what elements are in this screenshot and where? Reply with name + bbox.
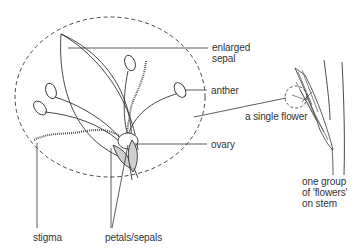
label-enlarged-sepal-line1: enlarged: [212, 42, 250, 53]
flower-diagram: [0, 0, 362, 251]
main-stem: [324, 60, 330, 120]
spikelet-lines: [292, 70, 328, 140]
label-petals-sepals: petals/sepals: [105, 232, 162, 243]
filament: [128, 94, 176, 135]
stigma-shape: [34, 130, 120, 140]
spike-stalk: [332, 148, 333, 175]
filament: [45, 112, 118, 140]
label-group-line2: of 'flowers': [302, 187, 362, 198]
filament: [55, 97, 120, 138]
main-stem: [342, 62, 344, 175]
label-group-line3: on stem: [302, 198, 362, 209]
label-group-of-flowers: one group of 'flowers' on stem: [302, 176, 362, 209]
label-enlarged-sepal: enlarged sepal: [212, 42, 250, 64]
magnification-circle: [15, 17, 205, 177]
flower-spike: [295, 68, 333, 150]
label-group-line1: one group: [302, 176, 362, 187]
label-ovary: ovary: [211, 139, 235, 150]
label-stigma: stigma: [33, 232, 62, 243]
anther-shape: [31, 99, 49, 118]
stigma-shape: [126, 61, 146, 138]
label-anther: anther: [211, 85, 239, 96]
label-single-flower: a single flower: [245, 111, 307, 122]
label-enlarged-sepal-line2: sepal: [212, 53, 250, 64]
anther-shape: [123, 54, 138, 72]
